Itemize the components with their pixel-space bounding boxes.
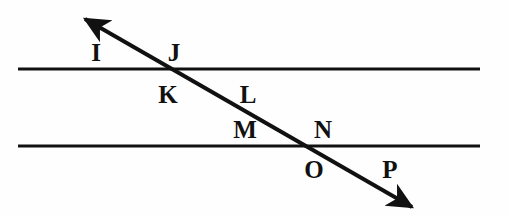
point-label-P: P	[382, 157, 397, 182]
geometry-figure-svg	[0, 0, 509, 216]
point-label-K: K	[158, 82, 177, 107]
transversal-line	[85, 19, 412, 207]
point-label-M: M	[233, 117, 257, 142]
point-label-I: I	[91, 40, 101, 65]
point-label-L: L	[240, 82, 257, 107]
point-label-N: N	[314, 117, 332, 142]
point-label-J: J	[168, 40, 181, 65]
geometry-figure-canvas: I J K L M N O P	[0, 0, 509, 216]
point-label-O: O	[304, 157, 323, 182]
